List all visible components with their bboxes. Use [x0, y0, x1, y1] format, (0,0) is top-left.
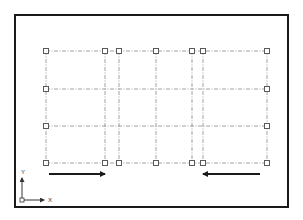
- grid-node: [190, 161, 195, 166]
- grid-node: [201, 49, 206, 54]
- grid-node: [103, 161, 108, 166]
- grid-node: [154, 49, 159, 54]
- grid-node: [265, 161, 270, 166]
- ucs-origin-box: [20, 198, 24, 202]
- drawing-canvas: Y X: [0, 0, 303, 220]
- grid-node: [154, 161, 159, 166]
- grid-node: [201, 161, 206, 166]
- grid-node: [190, 49, 195, 54]
- grid-node: [117, 49, 122, 54]
- grid-node: [265, 124, 270, 129]
- ucs-y-label: Y: [21, 169, 25, 175]
- grid-node: [265, 87, 270, 92]
- grid-node: [44, 87, 49, 92]
- grid-node: [44, 161, 49, 166]
- grid-node: [103, 49, 108, 54]
- ucs-icon: Y X: [20, 169, 52, 203]
- grid-node: [265, 49, 270, 54]
- grid-node: [117, 161, 122, 166]
- ucs-x-label: X: [48, 197, 52, 203]
- grid-node: [44, 124, 49, 129]
- grid-lines: [46, 51, 267, 163]
- grid-node: [44, 49, 49, 54]
- grid-nodes: [44, 49, 270, 166]
- drawing-frame: [15, 15, 288, 207]
